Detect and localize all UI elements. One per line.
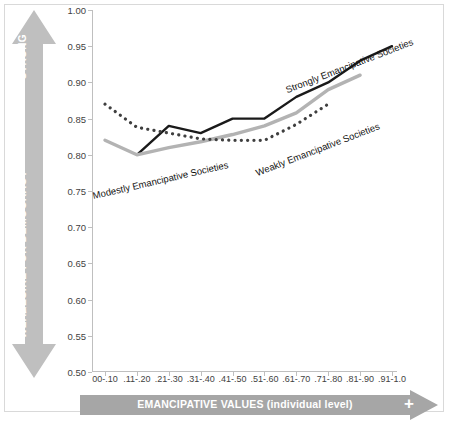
x-tick-mark xyxy=(137,372,138,376)
y-tick-label: 0.95 xyxy=(68,41,87,52)
y-tick-label: 0.80 xyxy=(68,149,87,160)
x-tick-mark xyxy=(201,372,202,376)
y-tick-label: 0.70 xyxy=(68,222,87,233)
y-tick-label: 1.00 xyxy=(68,5,87,16)
x-tick-mark xyxy=(360,372,361,376)
y-axis-arrow xyxy=(12,10,56,378)
series-line xyxy=(105,104,328,140)
y-tick-label: 0.60 xyxy=(68,294,87,305)
x-tick-mark xyxy=(264,372,265,376)
plot-area: 1.000.950.900.850.800.750.700.650.600.55… xyxy=(92,10,397,372)
x-tick-mark xyxy=(328,372,329,376)
y-tick-mark xyxy=(88,372,92,373)
x-tick-mark xyxy=(105,372,106,376)
x-tick-mark xyxy=(233,372,234,376)
x-tick-mark xyxy=(169,372,170,376)
chart-page: STRONG DESIRE FOR DEMOCRACY WEAK 1.000.9… xyxy=(0,0,450,427)
y-tick-label: 0.50 xyxy=(68,367,87,378)
x-tick-mark xyxy=(296,372,297,376)
y-tick-label: 0.90 xyxy=(68,77,87,88)
y-tick-label: 0.65 xyxy=(68,258,87,269)
y-tick-label: 0.75 xyxy=(68,186,87,197)
x-axis-arrow xyxy=(80,390,438,420)
y-tick-label: 0.55 xyxy=(68,330,87,341)
x-tick-mark xyxy=(392,372,393,376)
y-tick-label: 0.85 xyxy=(68,113,87,124)
